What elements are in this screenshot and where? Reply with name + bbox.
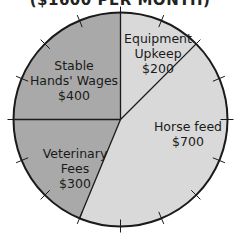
slice-label-veterinary-fees: Veterinary Fees $300 (32, 146, 118, 191)
slice-label-line: Fees (32, 161, 118, 176)
slice-label-line: Stable (28, 58, 120, 73)
slice-label-line: Upkeep (122, 46, 194, 61)
slice-value: $700 (148, 134, 228, 149)
slice-label-line: Horse feed (148, 119, 228, 134)
slice-label-line: Veterinary (32, 146, 118, 161)
slice-label-equipment-upkeep: Equipment Upkeep $200 (122, 31, 194, 76)
slice-label-line: Equipment (122, 31, 194, 46)
slice-value: $400 (28, 88, 120, 103)
slice-label-stable-hands-wages: Stable Hands' Wages $400 (28, 58, 120, 103)
slice-value: $300 (32, 176, 118, 191)
slice-value: $200 (122, 61, 194, 76)
slice-label-line: Hands' Wages (28, 73, 120, 88)
slice-label-horse-feed: Horse feed $700 (148, 119, 228, 149)
pie-chart (0, 0, 234, 235)
